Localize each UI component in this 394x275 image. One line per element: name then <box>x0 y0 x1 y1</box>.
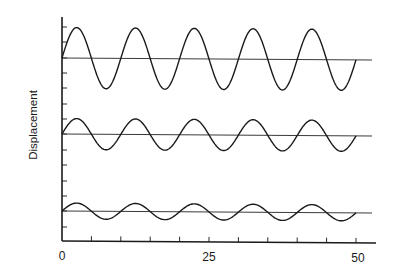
wave-line <box>62 119 356 152</box>
x-axis-labels: 0 25 50 <box>59 249 365 265</box>
wave-line <box>62 203 356 221</box>
wave-line <box>62 28 356 91</box>
x-label-25: 25 <box>202 250 216 264</box>
x-axis <box>62 241 376 243</box>
x-label-50: 50 <box>351 251 365 265</box>
displacement-chart: 0 25 50 Displacement <box>0 0 394 275</box>
wave-series <box>62 28 356 221</box>
y-axis-label: Displacement <box>27 89 39 159</box>
x-label-0: 0 <box>59 249 66 263</box>
